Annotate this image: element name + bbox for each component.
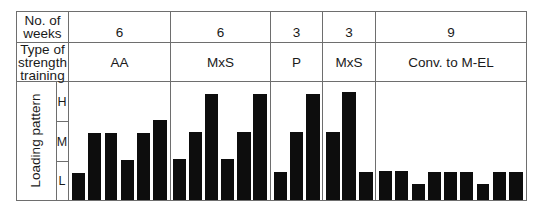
weeks-row-label: No. of weeks	[17, 12, 68, 42]
bar-p-1	[274, 172, 287, 200]
phase-5-weeks: 9	[376, 22, 526, 42]
type-row-label: Type of strength training	[17, 43, 68, 81]
bar-conv-2	[395, 171, 408, 200]
type-label-line2: strength	[18, 56, 67, 69]
bar-mxs2-1	[326, 132, 340, 200]
bar-mxs-1	[173, 159, 186, 200]
phase-1-weeks: 6	[69, 22, 170, 42]
bar-mxs-6	[253, 94, 267, 200]
level-l: L	[56, 162, 68, 200]
bar-p-2	[290, 132, 303, 200]
row-divider-2	[16, 81, 527, 82]
bar-mxs-5	[237, 132, 251, 200]
level-m: M	[56, 122, 68, 161]
phase-2-type: MxS	[171, 43, 270, 81]
phase-2-weeks: 6	[171, 22, 270, 42]
bar-mxs-4	[221, 159, 234, 200]
bar-aa-5	[137, 133, 150, 200]
bar-mxs-2	[189, 132, 202, 200]
bar-aa-2	[88, 133, 101, 200]
bar-conv-8	[493, 172, 506, 200]
table-border-right	[526, 11, 527, 201]
bar-conv-7	[477, 184, 489, 200]
bar-mxs2-2	[342, 92, 356, 200]
loading-pattern-label: Loading pattern	[16, 81, 56, 200]
phase-3-type: P	[271, 43, 322, 81]
table-border-bottom	[16, 200, 527, 201]
phase-5-type: Conv. to M-EL	[376, 43, 526, 81]
level-l-text: L	[59, 174, 66, 188]
bar-aa-1	[72, 173, 85, 200]
loading-pattern-text: Loading pattern	[29, 94, 44, 188]
bar-p-3	[306, 94, 320, 200]
bar-conv-6	[460, 172, 473, 200]
bar-aa-3	[105, 133, 117, 200]
level-h-text: H	[57, 95, 66, 109]
level-h: H	[56, 82, 68, 121]
phase-1-type: AA	[69, 43, 170, 81]
phase-3-weeks: 3	[271, 22, 322, 42]
type-label-line1: Type of	[20, 43, 64, 56]
phase-4-weeks: 3	[323, 22, 375, 42]
weeks-label-line2: weeks	[23, 27, 61, 40]
bar-aa-6	[153, 120, 167, 200]
bar-conv-5	[444, 172, 457, 200]
bar-conv-1	[379, 171, 392, 200]
level-m-text: M	[57, 135, 67, 149]
bar-mxs-3	[205, 94, 218, 200]
type-label-line3: training	[20, 69, 64, 82]
bar-conv-4	[428, 172, 441, 200]
bar-aa-4	[121, 160, 134, 200]
phase-4-type: MxS	[323, 43, 375, 81]
table-border-top	[16, 11, 527, 12]
bar-mxs2-3	[359, 172, 373, 200]
bar-conv-9	[509, 172, 523, 200]
bar-conv-3	[412, 184, 425, 200]
